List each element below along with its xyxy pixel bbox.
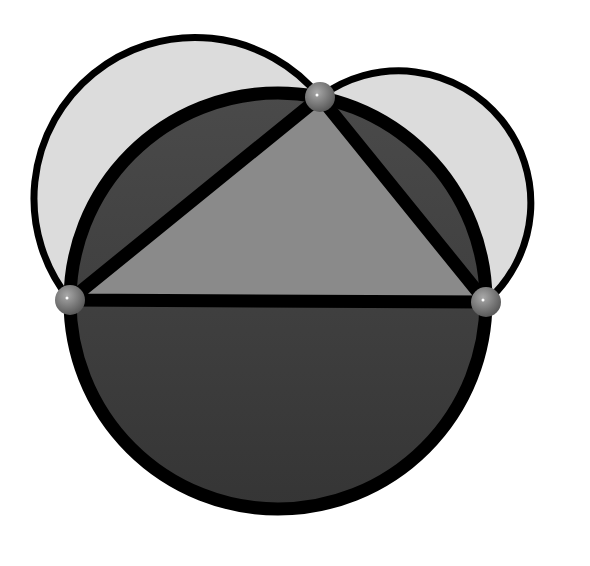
vertex-b [305, 82, 335, 112]
vertex-a-highlight [66, 297, 69, 300]
lune-diagram [0, 0, 590, 566]
vertex-c-highlight [482, 299, 485, 302]
vertex-a [55, 285, 85, 315]
vertex-b-highlight [316, 94, 319, 97]
vertex-c [471, 287, 501, 317]
